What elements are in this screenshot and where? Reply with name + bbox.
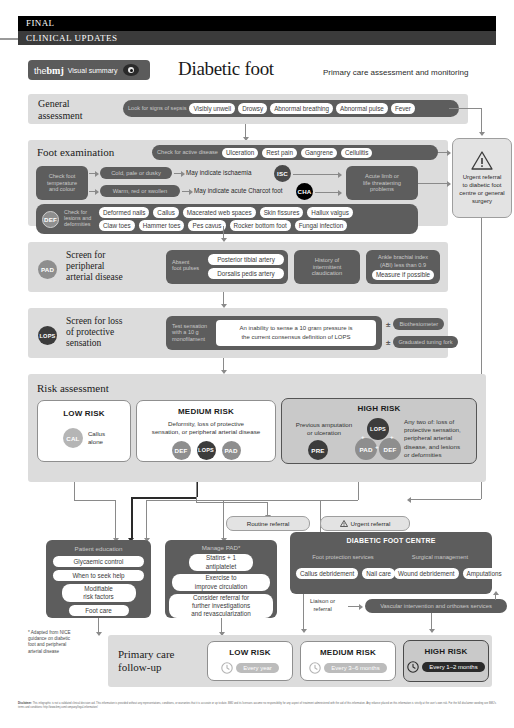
high-risk-left-line: or ulceration	[288, 429, 360, 437]
pad-pulse-pill[interactable]: Dorsalis pedis artery	[208, 268, 284, 279]
patient-education-item[interactable]: Foot care	[69, 605, 129, 616]
arrow-isc-to-acute	[293, 174, 341, 175]
arrow-managepad-down	[223, 500, 224, 539]
urgent-referral-label: Urgent referral	[351, 520, 391, 527]
sepsis-pill[interactable]: Fever	[391, 103, 415, 114]
follow-up-band: Primary care follow-up LOW RISK Every ye…	[108, 635, 492, 687]
follow-up-card-low[interactable]: LOW RISK Every year	[207, 641, 293, 681]
pad-claudication-box: History of intermittent claudication	[294, 250, 360, 284]
sepsis-pill[interactable]: Abnormal breathing	[270, 103, 333, 114]
lops-title: Screen for loss of protective sensation	[66, 316, 122, 350]
dfc-service-pill[interactable]: Callus debridement	[296, 568, 358, 579]
venn-plus-right: +	[390, 434, 394, 440]
bmj-brand-pill[interactable]: thebmj Visual summary	[28, 60, 150, 80]
high-risk-right-line: disease, and lesions	[404, 443, 474, 451]
arrow-head-icon	[407, 497, 411, 503]
status-bar-clinical-updates: CLINICAL UPDATES	[18, 31, 496, 45]
patient-education-item[interactable]: Glycaemic control	[53, 556, 144, 567]
biothesiometer-pill[interactable]: Biothesiometer	[393, 318, 444, 330]
lesion-pill[interactable]: Deformed nails	[99, 207, 149, 218]
urgent-referral-line: Urgent referral	[459, 173, 504, 181]
lops-test-label: Test sensation with a 10 g monofilament	[172, 323, 207, 342]
lesion-pill[interactable]: Pes cavus	[188, 220, 225, 231]
sepsis-pill[interactable]: Visibly unwell	[189, 103, 235, 114]
acute-limb-box: Acute limb or life threatening problems	[346, 166, 418, 200]
vascular-services-pill[interactable]: Vascular intervention and orthoses servi…	[365, 599, 507, 613]
acute-box-line: life threatening	[363, 180, 401, 187]
high-risk-card[interactable]: HIGH RISK Previous amputation or ulcerat…	[281, 398, 477, 464]
active-disease-label: Check for active disease	[157, 149, 218, 155]
lesion-pill[interactable]: Skin fissures	[260, 207, 304, 218]
infographic-canvas: thebmj Visual summary Diabetic foot Prim…	[18, 52, 496, 712]
clock-icon	[309, 662, 321, 674]
lesion-pill[interactable]: Fungal infection	[295, 220, 347, 231]
abi-measure-pill[interactable]: Measure if possible	[372, 270, 434, 280]
claudication-line: claudication	[312, 270, 343, 277]
claudication-line: intermittent	[313, 264, 342, 271]
risk-assessment-label: Risk assessment	[37, 382, 109, 395]
tuning-fork-pill[interactable]: Graduated tuning fork	[393, 336, 457, 348]
check-foot-temperature-box: Check foot temperature and colour	[36, 166, 88, 200]
patient-education-item[interactable]: When to seek help	[53, 570, 144, 581]
pad-title: Screen for peripheral arterial disease	[66, 250, 123, 284]
follow-up-low-title: LOW RISK	[208, 648, 292, 657]
acute-box-line: problems	[370, 186, 394, 193]
dfc-service-pill[interactable]: Wound debridement	[394, 568, 459, 579]
lesion-pill[interactable]: Hallux valgus	[307, 207, 352, 218]
sepsis-check-bar: Look for signs of sepsis Visibly unwell …	[123, 100, 459, 117]
lesion-pill[interactable]: Claw toes	[99, 220, 135, 231]
arrow-head-icon	[95, 171, 99, 177]
active-disease-pill[interactable]: Gangrene	[301, 148, 337, 158]
warm-red-pill[interactable]: Warm, red or swollen	[100, 185, 180, 197]
medium-risk-card[interactable]: MEDIUM RISK Deformity, loss of protectiv…	[136, 400, 276, 462]
manage-pad-item[interactable]: Consider referral for further investigat…	[169, 594, 273, 618]
lesion-pill[interactable]: Callus	[153, 207, 179, 218]
urgent-referral-pill[interactable]: Urgent referral	[320, 516, 410, 531]
arrow-acute-to-urgent	[418, 183, 450, 184]
disclaimer-label: Disclaimer:	[18, 702, 32, 705]
pad-pulse-pill[interactable]: Posterior tibial artery	[208, 254, 284, 265]
follow-up-card-medium[interactable]: MEDIUM RISK Every 3–6 months	[300, 641, 396, 681]
high-risk-right-line: protective sensation,	[404, 426, 474, 434]
active-disease-pill[interactable]: Ulceration	[222, 148, 258, 158]
arrow-low-down	[74, 482, 75, 500]
lesion-pill[interactable]: Macerated web spaces	[183, 207, 256, 218]
def-code-badge: DEF	[42, 211, 59, 228]
ischaemia-result-text: May indicate ischaemia	[186, 169, 251, 176]
venn-plus-bottom: +	[375, 444, 379, 450]
low-risk-card[interactable]: LOW RISK CAL Callus alone	[37, 400, 131, 462]
sepsis-pill[interactable]: Abnormal pulse	[336, 103, 388, 114]
abi-line: (ABI) less than 0.9	[380, 262, 426, 268]
brand-the: the	[34, 66, 47, 76]
arrow-manage-pad-down	[221, 618, 222, 633]
lesion-pill[interactable]: Hammer toes	[139, 220, 185, 231]
active-disease-pill[interactable]: Rest pain	[262, 148, 297, 158]
high-risk-right-line: or deformities	[404, 451, 474, 459]
arrow-head-icon	[429, 629, 435, 633]
dfc-service-pill[interactable]: Nail care	[362, 568, 395, 579]
manage-pad-item[interactable]: Statins + 1 antiplatelet	[189, 554, 253, 571]
dfc-service-pill[interactable]: Amputations	[463, 568, 506, 579]
charcot-result-text: May indicate acute Charcot foot	[194, 187, 283, 194]
low-risk-desc-line: Callus	[88, 430, 105, 438]
routine-referral-box[interactable]: Routine referral	[226, 516, 310, 531]
follow-up-label: Primary care follow-up	[118, 648, 175, 674]
arrow-head-icon	[338, 172, 342, 178]
vascular-services-label: Vascular intervention and orthoses servi…	[380, 603, 492, 610]
sepsis-pill[interactable]: Drowsy	[238, 103, 267, 114]
arrow-routine-down	[267, 502, 268, 516]
active-disease-bar: Check for active disease Ulceration Rest…	[152, 145, 438, 160]
manage-pad-item[interactable]: Exercise to improve circulation	[172, 574, 270, 591]
follow-up-card-high[interactable]: HIGH RISK Every 1–2 months	[403, 640, 489, 682]
cold-pale-pill[interactable]: Cold, pale or dusky	[100, 167, 172, 179]
lesion-pill[interactable]: Rocker bottom foot	[230, 220, 291, 231]
active-disease-pill[interactable]: Cellulitis	[341, 148, 372, 158]
arrow-medium-h	[131, 497, 197, 499]
urgent-referral-box[interactable]: Urgent referral to diabetic foot centre …	[452, 138, 512, 218]
patient-education-item[interactable]: Modifiable risk factors	[62, 584, 136, 602]
pad-code-badge: PAD	[222, 441, 241, 460]
foot-examination-band: Foot examination Check for active diseas…	[28, 140, 448, 226]
arrow-head-icon	[95, 189, 99, 195]
medium-risk-title: MEDIUM RISK	[137, 407, 275, 416]
infographic-header: thebmj Visual summary Diabetic foot Prim…	[28, 58, 486, 84]
